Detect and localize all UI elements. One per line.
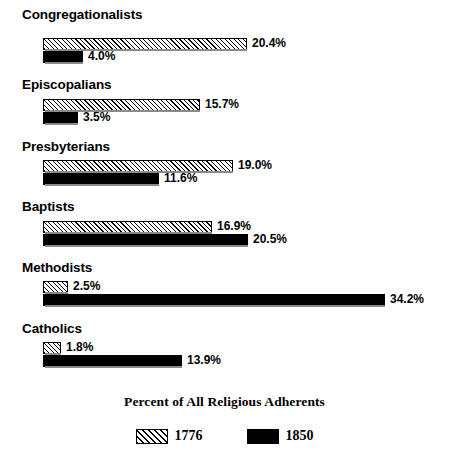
value-label: 4.0% [88,49,115,64]
value-label: 13.9% [187,353,221,368]
value-label: 2.5% [73,279,100,294]
category-label: Baptists [22,200,74,214]
value-label: 19.0% [238,158,272,173]
bar-1850 [43,355,182,367]
value-label: 20.5% [253,232,287,247]
legend-item-1776: 1776 [136,428,203,444]
category-label: Congregationalists [22,8,142,22]
value-label: 3.5% [83,110,110,125]
bar-1850 [43,173,159,185]
legend-item-1850: 1850 [247,428,314,444]
value-label: 15.7% [205,97,239,112]
legend-label-1850: 1850 [286,428,314,444]
chart-legend: 1776 1850 [0,428,449,444]
legend-swatch-hatch-icon [136,429,168,444]
value-label: 1.8% [66,340,93,355]
category-label: Catholics [22,322,82,336]
bar-1776 [43,281,68,293]
value-label: 34.2% [390,292,424,307]
bar-1776 [43,342,61,354]
category-label: Episcopalians [22,78,111,92]
value-label: 20.4% [252,36,286,51]
bar-1850 [43,112,78,124]
chart-title: Percent of All Religious Adherents [0,394,449,410]
bar-1850 [43,294,385,306]
category-label: Methodists [22,261,92,275]
legend-label-1776: 1776 [175,428,203,444]
bar-1850 [43,234,248,246]
legend-swatch-solid-icon [247,429,279,444]
bar-1776 [43,221,212,233]
bar-1776 [43,38,247,50]
bar-1776 [43,160,233,172]
value-label: 16.9% [217,219,251,234]
category-label: Presbyterians [22,140,110,154]
value-label: 11.6% [164,171,197,186]
bar-1776 [43,99,200,111]
bar-1850 [43,51,83,63]
